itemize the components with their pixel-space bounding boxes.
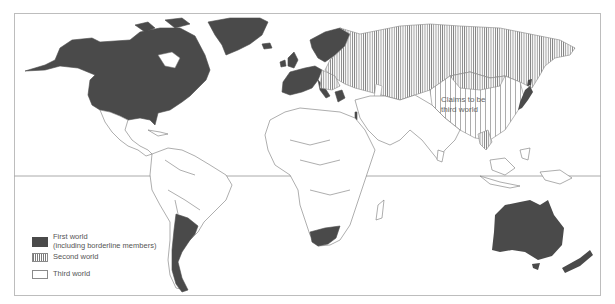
legend-label-third-world: Third world (53, 270, 90, 279)
annotation-line1: Claims to be (441, 95, 491, 105)
south-america (150, 148, 232, 292)
north-america (25, 18, 272, 125)
legend-label-second-world: Second world (53, 253, 98, 262)
third-world-swatch-icon (32, 270, 48, 279)
legend-item-second-world: Second world (32, 253, 98, 262)
legend-label-first-world-sub: (including borderline members) (53, 242, 156, 251)
annotation-line2: third world (441, 105, 491, 115)
legend-item-third-world: Third world (32, 270, 90, 279)
china-annotation: Claims to be third world (441, 95, 491, 115)
first-world-swatch-icon (32, 237, 48, 247)
australia (492, 200, 593, 273)
legend-item-first-world: First world (including borderline member… (32, 237, 156, 250)
second-world-swatch-icon (32, 253, 48, 262)
africa (265, 108, 384, 246)
